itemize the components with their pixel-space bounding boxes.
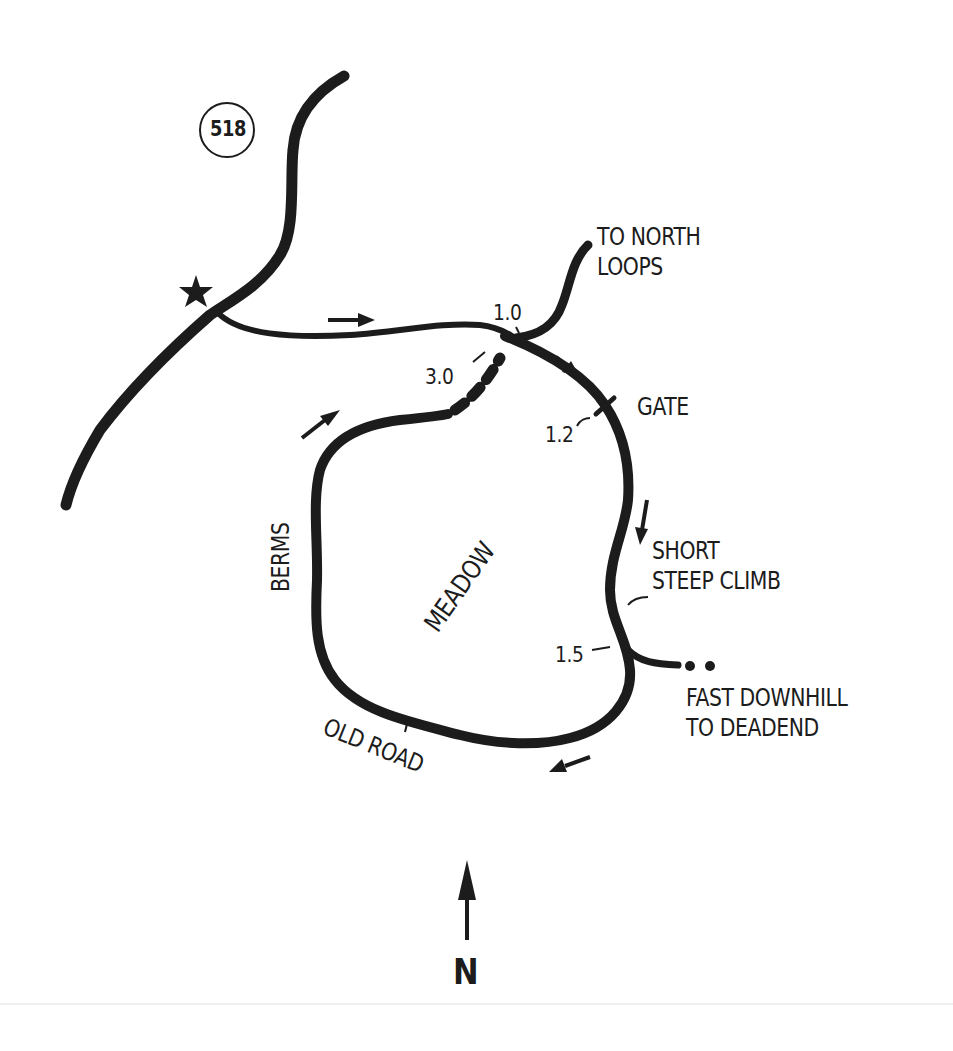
mile-marker-1-5: 1.5 [555, 640, 583, 670]
mile-marker-1-2: 1.2 [545, 420, 573, 450]
trailhead-star-icon [179, 275, 213, 307]
direction-arrow-icon [635, 500, 648, 545]
to-north-loops-label: TO NORTH LOOPS [597, 222, 700, 282]
mile-marker-3-0: 3.0 [425, 362, 453, 392]
mile-marker-1-0: 1.0 [493, 298, 521, 328]
deadend-spur [628, 650, 678, 665]
tick [628, 597, 648, 605]
deadend-dot [705, 661, 715, 671]
gate-label: GATE [637, 392, 689, 422]
tick [592, 647, 610, 650]
route-number-label: 518 [210, 114, 246, 144]
short-steep-climb-label: SHORT STEEP CLIMB [652, 536, 781, 596]
direction-arrow-icon [549, 757, 590, 772]
north-loops-trail [516, 245, 588, 338]
tick [473, 352, 485, 362]
dashed-connector [455, 358, 500, 410]
north-label: N [453, 952, 478, 992]
berms-label: BERMS [266, 523, 296, 592]
direction-arrow-icon [328, 313, 375, 327]
trail-map [0, 0, 953, 1051]
direction-arrow-icon [302, 410, 340, 438]
deadend-dot [685, 661, 695, 671]
tick [577, 418, 590, 426]
divider [0, 1003, 953, 1005]
north-arrow-icon [458, 860, 476, 940]
fast-downhill-label: FAST DOWNHILL TO DEADEND [686, 683, 847, 743]
